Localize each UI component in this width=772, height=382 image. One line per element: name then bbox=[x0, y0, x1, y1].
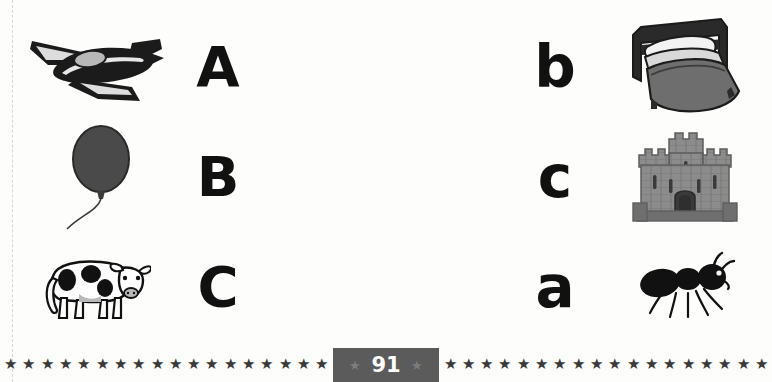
castle-picture[interactable] bbox=[610, 122, 760, 232]
uppercase-letter-A: A bbox=[196, 39, 239, 95]
border-star-icon: ★ bbox=[297, 356, 310, 371]
border-star-icon: ★ bbox=[260, 356, 273, 371]
border-star-icon: ★ bbox=[4, 356, 17, 371]
exercise-row-left-1: A bbox=[20, 12, 280, 122]
letter-cell-B[interactable]: B bbox=[170, 122, 266, 232]
airplane-icon bbox=[24, 25, 166, 109]
letter-cell-C[interactable]: C bbox=[170, 232, 266, 342]
workbook-page: A B bbox=[0, 0, 772, 382]
letter-cell-c[interactable]: c bbox=[500, 122, 610, 232]
badge-star-left-icon: ★ bbox=[349, 359, 361, 372]
page-footer: ★★★★★★★★★★★★★★★★★★★★★★★★★★★★★★★★★★★★★★★★… bbox=[0, 338, 772, 382]
border-star-icon: ★ bbox=[224, 356, 237, 371]
border-star-icon: ★ bbox=[535, 356, 548, 371]
page-number-badge: ★ 91 ★ bbox=[333, 348, 439, 382]
border-star-icon: ★ bbox=[315, 356, 328, 371]
border-star-icon: ★ bbox=[517, 356, 530, 371]
border-star-icon: ★ bbox=[755, 356, 768, 371]
border-star-icon: ★ bbox=[627, 356, 640, 371]
bed-icon bbox=[623, 15, 747, 119]
lowercase-letter-b: b bbox=[534, 38, 576, 96]
border-star-icon: ★ bbox=[663, 356, 676, 371]
ant-icon bbox=[630, 247, 740, 327]
border-star-icon: ★ bbox=[242, 356, 255, 371]
lowercase-letter-c: c bbox=[538, 148, 572, 206]
ant-picture[interactable] bbox=[610, 232, 760, 342]
border-star-icon: ★ bbox=[169, 356, 182, 371]
border-star-icon: ★ bbox=[700, 356, 713, 371]
border-star-icon: ★ bbox=[737, 356, 750, 371]
border-star-icon: ★ bbox=[590, 356, 603, 371]
border-star-icon: ★ bbox=[187, 356, 200, 371]
uppercase-letter-C: C bbox=[197, 259, 238, 315]
border-star-icon: ★ bbox=[498, 356, 511, 371]
border-star-icon: ★ bbox=[22, 356, 35, 371]
border-star-icon: ★ bbox=[96, 356, 109, 371]
border-star-icon: ★ bbox=[279, 356, 292, 371]
balloon-icon bbox=[47, 123, 143, 231]
exercise-row-right-3: a bbox=[500, 232, 772, 342]
letter-cell-a[interactable]: a bbox=[500, 232, 610, 342]
border-star-icon: ★ bbox=[718, 356, 731, 371]
balloon-picture[interactable] bbox=[20, 122, 170, 232]
border-star-icon: ★ bbox=[205, 356, 218, 371]
border-star-icon: ★ bbox=[132, 356, 145, 371]
border-star-icon: ★ bbox=[59, 356, 72, 371]
border-star-icon: ★ bbox=[77, 356, 90, 371]
exercise-row-left-2: B bbox=[20, 122, 280, 232]
castle-icon bbox=[631, 125, 739, 229]
border-star-icon: ★ bbox=[151, 356, 164, 371]
border-star-icon: ★ bbox=[572, 356, 585, 371]
border-star-icon: ★ bbox=[462, 356, 475, 371]
letter-cell-A[interactable]: A bbox=[170, 12, 266, 122]
border-star-icon: ★ bbox=[608, 356, 621, 371]
uppercase-letter-B: B bbox=[197, 149, 240, 205]
cow-icon bbox=[39, 250, 151, 324]
page-number: 91 bbox=[371, 355, 400, 376]
border-star-icon: ★ bbox=[41, 356, 54, 371]
exercise-row-right-1: b bbox=[500, 12, 772, 122]
letter-cell-b[interactable]: b bbox=[500, 12, 610, 122]
matching-exercise: A B bbox=[0, 0, 772, 382]
exercise-row-right-2: c bbox=[500, 122, 772, 232]
border-star-icon: ★ bbox=[444, 356, 457, 371]
border-star-icon: ★ bbox=[553, 356, 566, 371]
border-star-icon: ★ bbox=[682, 356, 695, 371]
border-star-icon: ★ bbox=[645, 356, 658, 371]
exercise-row-left-3: C bbox=[20, 232, 280, 342]
bed-picture[interactable] bbox=[610, 12, 760, 122]
airplane-picture[interactable] bbox=[20, 12, 170, 122]
cow-picture[interactable] bbox=[20, 232, 170, 342]
lowercase-letter-a: a bbox=[535, 258, 574, 316]
border-star-icon: ★ bbox=[480, 356, 493, 371]
border-star-icon: ★ bbox=[114, 356, 127, 371]
badge-star-right-icon: ★ bbox=[411, 359, 423, 372]
